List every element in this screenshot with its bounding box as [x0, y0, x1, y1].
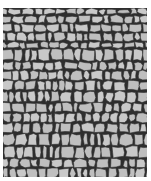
stone [143, 62, 147, 71]
stone [15, 92, 22, 103]
stone [59, 80, 66, 91]
stone [12, 71, 19, 81]
stone [15, 133, 28, 145]
stone [119, 134, 133, 147]
stone [146, 160, 147, 168]
stone [51, 49, 63, 60]
stone [74, 147, 84, 159]
stone [22, 124, 30, 134]
stone [61, 134, 70, 146]
stone [37, 81, 45, 90]
stone [129, 24, 142, 33]
stone [51, 133, 60, 144]
stone [112, 43, 123, 49]
stone [21, 24, 35, 33]
stone [48, 32, 52, 41]
stone [20, 70, 30, 81]
stone [38, 15, 46, 23]
stone [17, 169, 27, 177]
stone [111, 71, 123, 80]
stone [3, 49, 14, 60]
stone [74, 103, 78, 113]
stone [103, 33, 113, 42]
stone [146, 168, 147, 177]
stone [78, 15, 90, 22]
stone [134, 15, 140, 22]
stone [16, 32, 27, 41]
stone [62, 102, 73, 112]
stone [36, 103, 47, 112]
stone [138, 92, 148, 103]
stone [54, 32, 66, 41]
stone [3, 159, 8, 168]
stone [35, 32, 46, 41]
stone [3, 80, 14, 90]
stone [126, 61, 134, 70]
stone [102, 134, 110, 146]
stone [143, 49, 147, 61]
stone [49, 42, 60, 48]
stone [76, 168, 82, 177]
stone [51, 91, 60, 102]
stone [88, 42, 100, 49]
stone [83, 70, 89, 80]
stone [61, 24, 68, 33]
stone [134, 32, 140, 40]
stone [70, 167, 77, 177]
stone [85, 113, 92, 122]
stone [129, 123, 139, 133]
stone [124, 42, 134, 48]
stone [46, 16, 57, 24]
stone [9, 92, 15, 103]
stone [101, 24, 112, 32]
stone [60, 92, 72, 102]
stone [45, 63, 54, 71]
stone [22, 62, 31, 70]
stone [3, 113, 11, 122]
stone [44, 8, 56, 15]
stone [9, 158, 19, 168]
stone [26, 168, 37, 177]
stone [76, 33, 82, 42]
stone [14, 49, 23, 61]
stone [117, 10, 130, 14]
stone [139, 82, 147, 91]
stone [22, 92, 27, 102]
stone [135, 42, 144, 48]
stone [94, 123, 105, 132]
stone [3, 91, 8, 102]
stone [143, 23, 147, 32]
stone [131, 70, 137, 79]
stone [16, 147, 24, 159]
stone [38, 169, 46, 177]
stone [144, 133, 147, 147]
stone [23, 146, 33, 157]
stone [93, 102, 104, 112]
stone [69, 133, 81, 146]
stone [12, 103, 25, 112]
stone [118, 62, 125, 70]
stone [128, 168, 135, 177]
stone [57, 16, 64, 24]
stone [64, 62, 78, 69]
stone [123, 160, 128, 167]
stone [85, 8, 98, 15]
stone [136, 113, 147, 123]
stone [74, 48, 82, 61]
stone [105, 93, 114, 103]
stone [114, 82, 125, 91]
stone [99, 61, 107, 70]
stone [70, 42, 79, 48]
stone [54, 146, 60, 159]
stone [80, 43, 87, 49]
stone [114, 91, 126, 103]
stone [3, 62, 14, 71]
stone [118, 168, 128, 177]
stone [33, 62, 45, 70]
stone [65, 81, 73, 91]
stone [144, 104, 147, 113]
stone [119, 113, 128, 123]
stone [123, 33, 134, 42]
stone [7, 41, 20, 47]
stone [61, 146, 74, 158]
